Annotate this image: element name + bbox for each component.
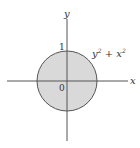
origin-label: 0 (59, 83, 65, 93)
circle-diagram: x y 1 0 y2 + x2 (0, 0, 140, 148)
y-axis-label: y (63, 8, 70, 19)
curve-equation-label: y2 + x2 (91, 47, 126, 59)
x-axis-label: x (130, 75, 136, 86)
tick-label-one: 1 (59, 42, 65, 52)
